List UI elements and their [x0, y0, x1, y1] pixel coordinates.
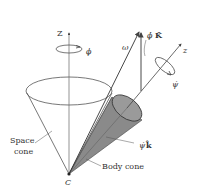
- svg-text:K̂: K̂: [155, 30, 163, 40]
- space-z-axis: [56, 33, 82, 174]
- svg-text:Space: Space: [10, 136, 35, 145]
- space-z-label: Z: [57, 29, 63, 38]
- psi-dot-k-label: ψ̇ k̂: [139, 140, 152, 150]
- phi-dot-K-label: ϕ̇ K̂: [147, 30, 163, 40]
- body-z-rotation-label: ψ̇: [172, 80, 179, 89]
- svg-text:cone: cone: [14, 147, 33, 156]
- space-cone-label: Space cone: [10, 136, 35, 156]
- svg-text:k̂: k̂: [145, 140, 152, 150]
- space-body-cone-diagram: Z ϕ ω ϕ̇ K̂ z ψ̇ ψ̇ k̂: [0, 0, 197, 193]
- space-z-rotation-label: ϕ: [86, 47, 92, 56]
- apex-point: [67, 172, 70, 175]
- svg-text:ϕ̇: ϕ̇: [147, 31, 153, 40]
- svg-text:ψ̇: ψ̇: [139, 141, 146, 150]
- omega-label: ω: [122, 43, 129, 52]
- body-z-label: z: [182, 46, 188, 55]
- body-z-rotation-icon: [153, 54, 178, 77]
- body-z-axis: [127, 44, 181, 108]
- body-cone-label: Body cone: [102, 162, 144, 171]
- apex-label: C: [65, 178, 71, 187]
